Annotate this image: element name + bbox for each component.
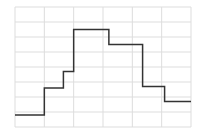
step-chart	[0, 0, 200, 132]
